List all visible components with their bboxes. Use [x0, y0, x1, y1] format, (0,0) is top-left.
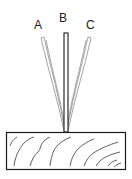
diagram: A B C: [0, 0, 132, 179]
strip-c: [67, 37, 92, 131]
strip-a: [41, 37, 66, 131]
label-strip-c: C: [86, 19, 95, 31]
label-strip-a: A: [34, 19, 42, 31]
strip-b: [64, 33, 68, 132]
wooden-block: [7, 133, 126, 170]
label-strip-b: B: [59, 12, 67, 24]
diagram-svg: [0, 0, 132, 179]
